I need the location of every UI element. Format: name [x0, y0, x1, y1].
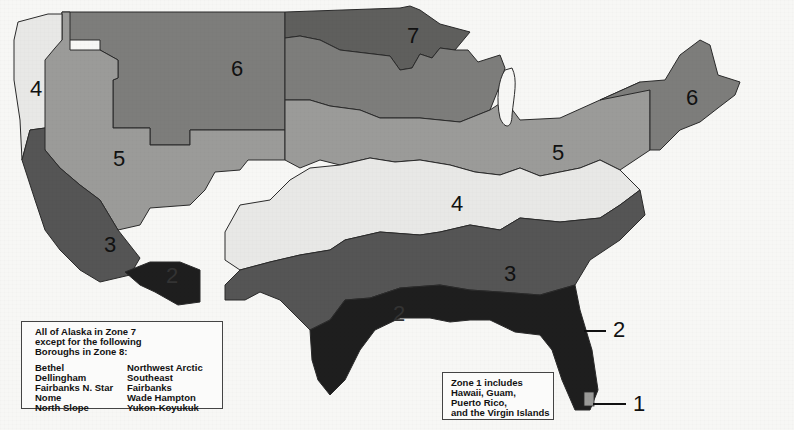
alaska-boroughs-column-1: Bethel Dellingham Fairbanks N. Star Nome… [35, 363, 127, 413]
zone-label-4-west: 4 [30, 78, 42, 100]
zone-label-3-west: 3 [104, 234, 116, 256]
borough-item: North Slope [35, 403, 127, 413]
callout-label-zone-1: 1 [633, 393, 645, 415]
alaska-boroughs-column-2: Northwest Arctic Southeast Fairbanks Wad… [127, 363, 219, 413]
borough-item: Southeast Fairbanks [127, 373, 219, 393]
borough-item: Yukon-Koyukuk [127, 403, 219, 413]
alaska-note-box: All of Alaska in Zone 7 except for the f… [21, 321, 223, 409]
callout-line-zone-1 [593, 403, 626, 405]
zone-label-5-west: 5 [113, 148, 125, 170]
zone-label-6-northeast: 6 [686, 87, 698, 109]
zone-label-4-central: 4 [451, 193, 463, 215]
alaska-note-heading: All of Alaska in Zone 7 except for the f… [35, 327, 222, 357]
zone-label-3-southeast: 3 [504, 263, 516, 285]
zone-label-5-midwest: 5 [552, 142, 564, 164]
zone-label-7-north: 7 [407, 25, 419, 47]
zone-2-region-southwest [125, 262, 200, 305]
callout-line-zone-2 [584, 330, 606, 332]
zone-label-2-southwest: 2 [166, 265, 178, 287]
zone-1-note-box: Zone 1 includes Hawaii, Guam, Puerto Ric… [442, 372, 554, 420]
zone-label-2-gulf: 2 [393, 303, 405, 325]
zone-label-6-northwest: 6 [231, 58, 243, 80]
callout-label-zone-2: 2 [613, 319, 625, 341]
